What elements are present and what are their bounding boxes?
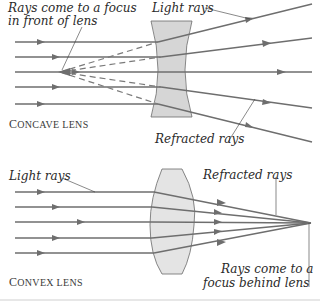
convex-light-rays-label: Light rays (8, 169, 71, 183)
convex-incident-rays (15, 192, 154, 253)
lens-diagram: Rays come to a focus in front of lens Li… (0, 0, 320, 303)
convex-refracted-rays-label: Refracted rays (202, 168, 292, 182)
concave-refracted-rays-label: Refracted rays (154, 132, 244, 146)
concave-light-rays-label: Light rays (151, 1, 214, 15)
concave-caption: CONCAVE LENS (9, 117, 89, 131)
convex-focus-label-1: Rays come to a (220, 262, 313, 276)
concave-focus-label-2: in front of lens (8, 14, 97, 28)
convex-focus-label-2: focus behind lens (202, 276, 310, 290)
convex-caption: CONVEX LENS (9, 275, 83, 289)
concave-focus-arrow (58, 68, 70, 76)
concave-section: Rays come to a focus in front of lens Li… (7, 1, 312, 146)
convex-section: Light rays Refracted rays Rays come to a… (8, 168, 313, 290)
concave-incident-rays (15, 42, 163, 104)
concave-incident-arrows (37, 39, 80, 107)
concave-focus-label-1: Rays come to a focus (7, 1, 137, 15)
